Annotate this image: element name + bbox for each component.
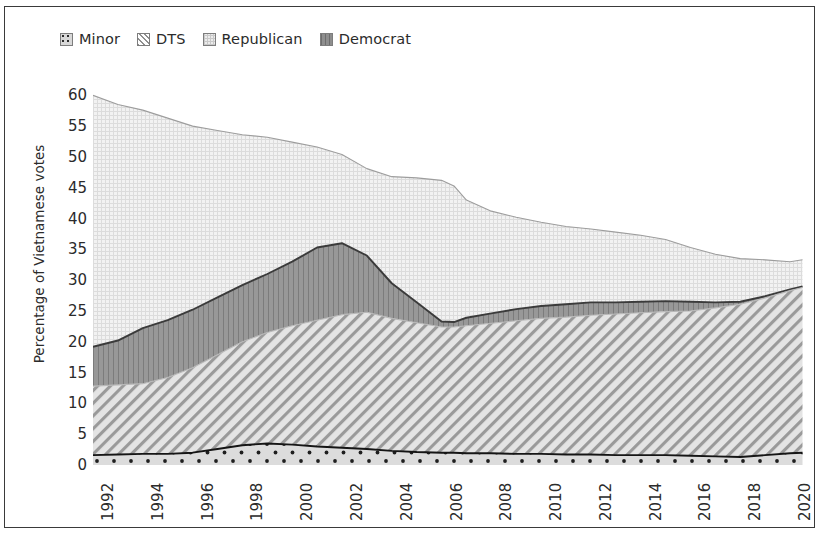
x-tick-label: 2002 [348, 483, 366, 521]
x-tick-label: 2008 [497, 483, 515, 521]
x-tick-label: 2010 [547, 483, 565, 521]
x-tick-label: 2012 [597, 483, 615, 521]
x-tick-label: 1992 [99, 483, 117, 521]
x-tick-label: 2006 [448, 483, 466, 521]
plot-area [93, 83, 805, 465]
x-tick-label: 1996 [199, 483, 217, 521]
x-tick-label: 2014 [647, 483, 665, 521]
x-tick-label: 1994 [149, 483, 167, 521]
x-tick-label: 2000 [298, 483, 316, 521]
stacked-area-chart [93, 83, 805, 465]
x-tick-label: 2016 [696, 483, 714, 521]
x-tick-label: 2018 [746, 483, 764, 521]
x-tick-label: 2020 [796, 483, 814, 521]
figure-frame: Minor DTS Republican Democrat Percentage… [4, 6, 815, 528]
x-tick-label: 1998 [248, 483, 266, 521]
x-tick-label: 2004 [398, 483, 416, 521]
